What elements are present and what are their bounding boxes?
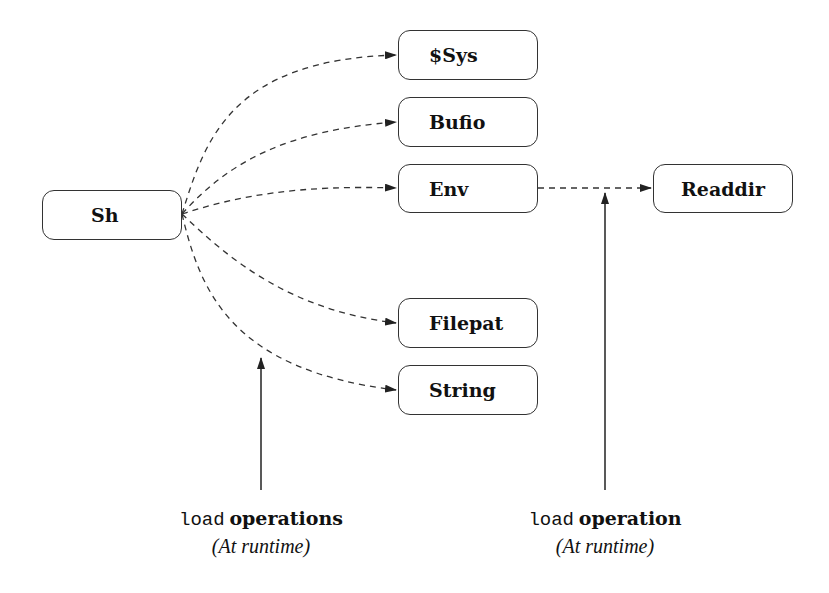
annotation-left-code: load (179, 509, 225, 531)
node-bufio-label: Bufio (399, 111, 485, 133)
node-sh-label: Sh (43, 204, 119, 226)
node-sh: Sh (42, 190, 182, 240)
node-string-label: String (399, 379, 496, 401)
edge-sh-string (182, 214, 396, 390)
annotation-left: load operations (At runtime) (161, 507, 361, 558)
node-sys-label: $Sys (399, 44, 478, 66)
annotation-right-note: (At runtime) (505, 535, 705, 558)
annotation-left-label: operations (229, 507, 343, 529)
edge-sh-sys (182, 55, 396, 214)
node-bufio: Bufio (398, 97, 538, 147)
edge-sh-bufio (182, 122, 396, 214)
annotation-left-note: (At runtime) (161, 535, 361, 558)
node-string: String (398, 365, 538, 415)
node-readdir-label: Readdir (681, 178, 765, 200)
edges-layer (0, 0, 829, 593)
annotation-right: load operation (At runtime) (505, 507, 705, 558)
annotation-right-label: operation (579, 507, 682, 529)
edge-sh-filepat (182, 214, 396, 323)
edge-sh-env (182, 187, 396, 214)
node-env: Env (398, 164, 538, 213)
node-filepat-label: Filepat (399, 312, 503, 334)
node-sys: $Sys (398, 30, 538, 80)
annotation-right-title: load operation (505, 507, 705, 531)
annotation-right-code: load (528, 509, 574, 531)
node-env-label: Env (399, 178, 468, 200)
annotation-left-title: load operations (161, 507, 361, 531)
node-readdir: Readdir (653, 164, 793, 213)
node-filepat: Filepat (398, 298, 538, 348)
